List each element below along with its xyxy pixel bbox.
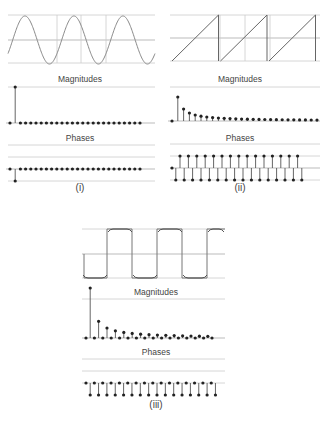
magnitudes-label: Magnitudes bbox=[218, 74, 262, 84]
panel-caption: (ii) bbox=[234, 182, 245, 193]
panel-ii: Magnitudes Phases (ii) bbox=[168, 15, 320, 193]
phases-stem-plot bbox=[170, 144, 320, 182]
phases-label: Phases bbox=[66, 133, 94, 143]
fourier-figure: Magnitudes Phases (i) Magnitudes Phases … bbox=[0, 0, 329, 424]
waveform-sine bbox=[8, 15, 155, 64]
phases-label: Phases bbox=[142, 347, 170, 357]
magnitudes-label: Magnitudes bbox=[58, 74, 102, 84]
magnitudes-label: Magnitudes bbox=[134, 287, 178, 297]
panel-i: Magnitudes Phases (i) bbox=[6, 15, 155, 193]
panel-caption: (i) bbox=[76, 182, 85, 193]
phases-label: Phases bbox=[226, 133, 254, 143]
phases-stem-plot bbox=[6, 145, 155, 183]
magnitudes-stem-plot bbox=[168, 87, 320, 123]
panel-caption: (iii) bbox=[149, 399, 162, 410]
panel-iii: Magnitudes Phases (iii) bbox=[82, 229, 225, 410]
phases-stem-plot bbox=[82, 359, 225, 397]
waveform-sawtooth bbox=[170, 15, 320, 61]
waveform-square bbox=[82, 229, 225, 278]
magnitudes-stem-plot bbox=[6, 85, 155, 124]
